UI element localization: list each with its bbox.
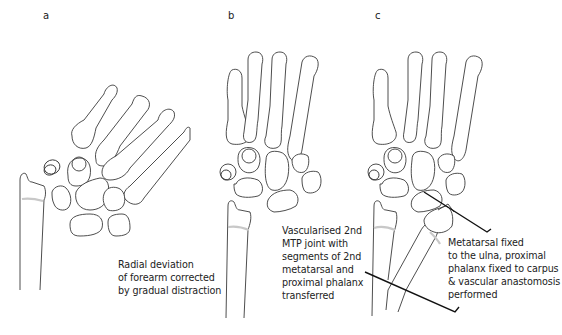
graft-growth-plate: [430, 232, 440, 244]
metacarpal-2: [243, 52, 262, 143]
forearm-bone: [226, 201, 251, 318]
growth-plate: [374, 227, 395, 230]
triquetrum: [52, 186, 71, 210]
metacarpal-3: [425, 52, 447, 148]
metacarpal-4: [452, 56, 482, 161]
scaphoid: [267, 190, 298, 212]
trapezoid: [292, 154, 309, 173]
hamate: [384, 147, 406, 172]
triquetrum: [234, 178, 263, 197]
metacarpal-4: [288, 56, 318, 161]
metacarpal-3: [265, 52, 287, 148]
hamate: [238, 147, 260, 172]
forearm-bone: [20, 173, 46, 290]
metacarpal-1: [372, 69, 396, 144]
trapezoid: [438, 154, 455, 173]
capitate: [265, 151, 288, 190]
scaphoid: [108, 214, 130, 236]
leader-line-lower: [365, 272, 459, 312]
metacarpal-2: [403, 52, 422, 143]
growth-plate: [22, 199, 43, 201]
panel-b-caption: Vascularised 2nd MTP joint with segments…: [282, 224, 363, 302]
capitate: [411, 151, 434, 190]
panel-c-caption: Metatarsal fixed to the ulna, proximal p…: [448, 236, 560, 301]
panel-a-caption: Radial deviation of forearm corrected by…: [118, 258, 221, 297]
trapezium: [446, 173, 465, 195]
lunate: [70, 214, 103, 236]
growth-plate: [228, 227, 249, 230]
trapezium: [302, 171, 321, 193]
triquetrum: [380, 178, 409, 197]
trapezoid: [103, 187, 125, 211]
forearm-bone: [372, 201, 397, 316]
